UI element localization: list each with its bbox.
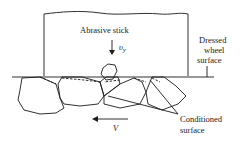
feed-velocity-label: υy <box>119 42 126 53</box>
velocity-arrowhead <box>92 116 98 122</box>
abrasive-grain <box>18 77 64 114</box>
dressed-label-line1: Dressed <box>199 35 227 45</box>
wheel-velocity-label: V <box>113 123 120 133</box>
abrasive-grain <box>104 78 146 108</box>
conditioned-label-line2: surface <box>180 125 205 135</box>
conditioned-label-line1: Conditioned <box>180 114 223 124</box>
dressed-label-line2: wheel <box>204 45 225 55</box>
dressed-label-line3: surface <box>197 55 222 65</box>
feed-velocity-subscript: y <box>122 46 126 53</box>
loose-grain <box>101 64 117 80</box>
abrasive-grain <box>58 77 104 106</box>
abrasive-stick-label: Abrasive stick <box>80 25 130 35</box>
abrasive-stick <box>44 11 188 76</box>
dressing-diagram: Abrasive stick υy Dressed wheel surface … <box>0 0 245 142</box>
feed-arrowhead <box>109 50 115 55</box>
